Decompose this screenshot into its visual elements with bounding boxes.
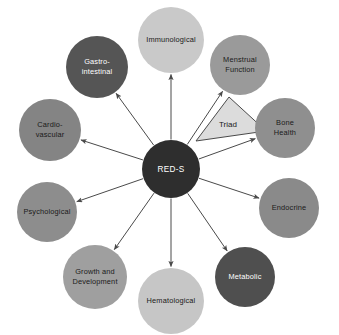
connector-psychological: [77, 179, 143, 202]
node-immunological[interactable]: Immunological: [138, 7, 204, 73]
node-label-immunological: Immunological: [146, 35, 196, 44]
hub-label: RED-S: [158, 165, 185, 174]
node-endocrine[interactable]: Endocrine: [259, 178, 319, 238]
connector-endocrine: [199, 178, 259, 198]
node-label-cardio-vascular: Cardio-vascular: [36, 120, 65, 139]
node-metabolic[interactable]: Metabolic: [215, 247, 275, 307]
connector-cardio-vascular: [81, 140, 143, 160]
node-growth-and-development[interactable]: Growth andDevelopment: [63, 245, 127, 309]
node-cardio-vascular[interactable]: Cardio-vascular: [19, 99, 81, 161]
connector-bone-health: [199, 139, 256, 159]
triad-shape: [196, 97, 266, 141]
connector-gastro-intestinal: [116, 93, 154, 145]
node-label-gastro-intestinal: Gastro-intestinal: [82, 57, 113, 76]
node-bone-health[interactable]: BoneHealth: [255, 98, 315, 158]
connector-metabolic: [188, 193, 228, 251]
node-psychological[interactable]: Psychological: [17, 182, 77, 242]
node-hematological[interactable]: Hematological: [138, 268, 204, 334]
node-label-psychological: Psychological: [23, 207, 70, 216]
diagram-canvas: Triad ImmunologicalMenstrualFunctionBone…: [0, 0, 339, 335]
node-label-endocrine: Endocrine: [272, 203, 307, 212]
node-label-hematological: Hematological: [147, 296, 196, 305]
node-label-growth-and-development: Growth andDevelopment: [72, 267, 117, 286]
node-label-menstrual-function: MenstrualFunction: [223, 55, 257, 74]
node-label-bone-health: BoneHealth: [274, 118, 296, 137]
connector-growth-and-development: [114, 193, 154, 249]
node-label-metabolic: Metabolic: [229, 272, 262, 281]
hub-node[interactable]: RED-S: [142, 140, 200, 198]
triad-triangle: Triad: [196, 97, 266, 141]
node-menstrual-function[interactable]: MenstrualFunction: [210, 35, 270, 95]
red-s-diagram: Triad ImmunologicalMenstrualFunctionBone…: [0, 0, 339, 335]
triad-label: Triad: [219, 120, 237, 129]
node-gastro-intestinal[interactable]: Gastro-intestinal: [66, 36, 128, 98]
